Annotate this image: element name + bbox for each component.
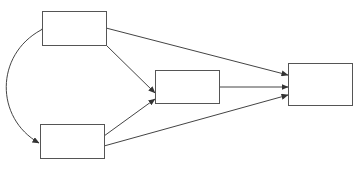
diagram-svg	[0, 0, 357, 173]
node-x2	[41, 125, 105, 159]
node-x1	[43, 12, 107, 46]
node-outcome	[289, 64, 353, 106]
node-mediator	[156, 71, 220, 104]
edge-x2-to-m	[104, 99, 155, 136]
edge-covariance-x1-x2	[6, 30, 41, 143]
path-diagram	[0, 0, 357, 173]
edge-x1-to-m	[106, 45, 155, 93]
edge-x1-to-y	[106, 28, 288, 75]
